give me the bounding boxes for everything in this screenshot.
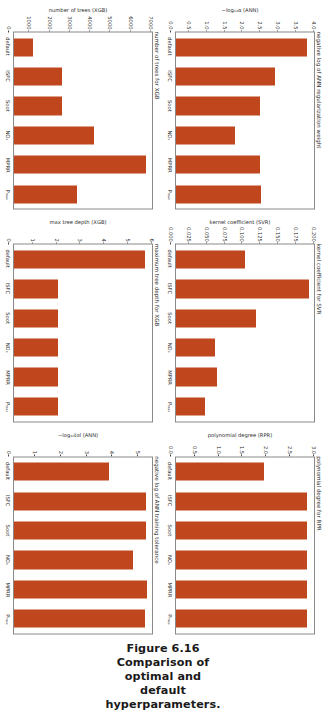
x-tick-label: Soot bbox=[3, 90, 13, 120]
y-tick-label: 6 bbox=[149, 238, 155, 241]
x-tick-label: Pₘₐₓ bbox=[165, 392, 175, 422]
y-tick-label: 2.5 bbox=[287, 445, 293, 453]
x-tick-label: default bbox=[165, 456, 175, 486]
y-axis-ticks: 4.03.53.02.52.01.51.00.50.0 bbox=[165, 14, 315, 31]
y-tick-label: 2 bbox=[54, 238, 60, 241]
bar bbox=[176, 155, 260, 173]
y-tick-label: 5000 bbox=[107, 16, 113, 29]
y-axis: kernel coefficient (SVR)0.2000.1750.1500… bbox=[165, 217, 315, 243]
x-tick-label: default bbox=[3, 456, 13, 486]
y-tick-label: 3.0 bbox=[275, 21, 281, 29]
x-axis-ticks: defaultISFCSootNOₓMPRRPₘₐₓ bbox=[165, 31, 175, 209]
x-tick-label: Pₘₐₓ bbox=[165, 180, 175, 210]
x-tick-label: Soot bbox=[3, 303, 13, 333]
x-tick-label: Pₘₐₓ bbox=[3, 604, 13, 634]
panel-grid: negative log of ANN regularization weigh… bbox=[2, 4, 324, 635]
bar bbox=[176, 492, 307, 510]
bar bbox=[14, 126, 94, 144]
x-tick-label: ISFC bbox=[165, 273, 175, 303]
y-axis-ticks: 70006000500040003000200010000 bbox=[3, 14, 153, 31]
y-tick-label: 0 bbox=[6, 26, 12, 29]
x-tick-label: default bbox=[165, 243, 175, 273]
x-tick-label: Soot bbox=[3, 515, 13, 545]
bar bbox=[176, 250, 245, 268]
y-tick-label: 0.000 bbox=[168, 226, 174, 241]
y-tick-label: 7000 bbox=[148, 16, 154, 29]
bar-slot bbox=[176, 391, 314, 420]
bar-slot bbox=[176, 244, 314, 273]
y-axis-label: −log₁₀tol (ANN) bbox=[3, 430, 153, 439]
x-tick-label: ISFC bbox=[3, 61, 13, 91]
chart-panel-1: kernel coefficient for SVRkernel coeffic… bbox=[164, 216, 324, 422]
chart-panel-3: number of trees for XGBnumber of trees (… bbox=[2, 4, 162, 210]
x-tick-label: NOₓ bbox=[165, 332, 175, 362]
figure-caption-column: Figure 6.16 Comparison of optimal and de… bbox=[2, 635, 324, 719]
y-tick-label: 0 bbox=[6, 238, 12, 241]
y-tick-label: 3 bbox=[84, 450, 90, 453]
bar-slot bbox=[176, 32, 314, 61]
y-axis-label: polynomial degree (RPR) bbox=[165, 430, 315, 439]
x-tick-label: ISFC bbox=[165, 61, 175, 91]
bar-slot bbox=[14, 179, 152, 208]
y-axis-ticks: 3.02.52.01.51.00.50.0 bbox=[165, 439, 315, 456]
bar-slot bbox=[14, 574, 152, 603]
bar-slot bbox=[14, 32, 152, 61]
bar-slot bbox=[176, 545, 314, 574]
bar-slot bbox=[14, 604, 152, 633]
y-axis: max tree depth (XGB)6543210 bbox=[3, 217, 153, 243]
y-tick-label: 1.5 bbox=[222, 21, 228, 29]
x-axis-ticks: defaultISFCSootNOₓMPRRPₘₐₓ bbox=[3, 456, 13, 634]
bar bbox=[176, 397, 205, 415]
bar-slot bbox=[14, 486, 152, 515]
y-tick-label: 1.5 bbox=[239, 445, 245, 453]
bar-slot bbox=[176, 91, 314, 120]
x-tick-label: ISFC bbox=[3, 485, 13, 515]
y-tick-label: 3.5 bbox=[293, 21, 299, 29]
bar bbox=[176, 521, 307, 539]
bar bbox=[14, 462, 109, 480]
x-axis-ticks: defaultISFCSootNOₓMPRRPₘₐₓ bbox=[165, 243, 175, 421]
plot-axes bbox=[13, 243, 153, 421]
bar-slot bbox=[14, 120, 152, 149]
x-tick-label: Soot bbox=[165, 90, 175, 120]
bar-slot bbox=[176, 362, 314, 391]
figure-rotated-canvas: negative log of ANN regularization weigh… bbox=[0, 0, 328, 721]
bar bbox=[176, 67, 275, 85]
x-axis-ticks: defaultISFCSootNOₓMPRRPₘₐₓ bbox=[165, 456, 175, 634]
bar bbox=[14, 550, 133, 568]
y-axis-label-text: polynomial degree (RPR) bbox=[208, 431, 272, 437]
bar bbox=[176, 462, 264, 480]
x-tick-label: MPRR bbox=[165, 575, 175, 605]
bar bbox=[14, 338, 58, 356]
bar-slot bbox=[14, 391, 152, 420]
bar bbox=[176, 550, 307, 568]
y-tick-label: 1 bbox=[30, 238, 36, 241]
bar-slot bbox=[14, 303, 152, 332]
y-axis-ticks: 543210 bbox=[3, 439, 153, 456]
bar bbox=[14, 185, 77, 203]
bar bbox=[176, 609, 307, 627]
figure-page: negative log of ANN regularization weigh… bbox=[0, 0, 328, 721]
y-tick-label: 1 bbox=[32, 450, 38, 453]
x-tick-label: MPRR bbox=[3, 362, 13, 392]
chart-panel-5: negative log of ANN training tolerance−l… bbox=[2, 429, 162, 635]
chart-panel-2: polynomial degree for RPRpolynomial degr… bbox=[164, 429, 324, 635]
y-tick-label: 4 bbox=[109, 450, 115, 453]
y-tick-label: 6000 bbox=[128, 16, 134, 29]
x-tick-label: Pₘₐₓ bbox=[3, 180, 13, 210]
bar-slot bbox=[14, 515, 152, 544]
bar bbox=[176, 185, 261, 203]
y-tick-label: 0.100 bbox=[239, 226, 245, 241]
y-tick-label: 2.0 bbox=[239, 21, 245, 29]
x-tick-label: NOₓ bbox=[3, 120, 13, 150]
y-axis-label: number of trees (XGB) bbox=[3, 5, 153, 14]
bar-slot bbox=[176, 303, 314, 332]
x-tick-label: MPRR bbox=[165, 150, 175, 180]
y-axis-ticks: 6543210 bbox=[3, 226, 153, 243]
y-tick-label: 2000 bbox=[47, 16, 53, 29]
plot-axes bbox=[175, 456, 315, 634]
bar-slot bbox=[176, 61, 314, 90]
x-axis-ticks: defaultISFCSootNOₓMPRRPₘₐₓ bbox=[3, 31, 13, 209]
y-tick-label: 0.050 bbox=[204, 226, 210, 241]
bar bbox=[176, 279, 309, 297]
